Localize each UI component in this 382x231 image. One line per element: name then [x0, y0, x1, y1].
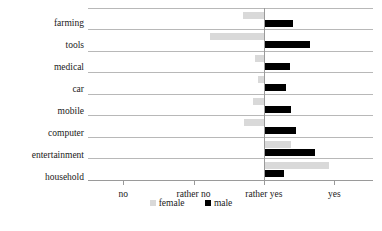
gridline — [88, 94, 373, 95]
bar-male-tools — [264, 41, 310, 48]
plot-area: no rather no rather yes yes — [88, 8, 373, 180]
legend-label-male: male — [214, 198, 232, 208]
bar-female-household — [264, 162, 329, 169]
bar-male-entertainment — [264, 149, 315, 156]
gridline — [88, 115, 373, 116]
chart-legend: female male — [0, 198, 382, 208]
gridline — [88, 137, 373, 138]
category-label-medical: medical — [0, 62, 84, 72]
baseline-reference-line — [264, 8, 265, 181]
x-axis-tick — [123, 180, 124, 185]
category-label-farming: farming — [0, 18, 84, 28]
x-axis-tick — [334, 180, 335, 185]
gridline — [88, 8, 373, 9]
category-label-mobile: mobile — [0, 106, 84, 116]
bar-male-car — [264, 84, 287, 91]
bar-female-tools — [210, 33, 264, 40]
bar-female-entertainment — [264, 141, 291, 148]
bar-female-farming — [243, 12, 264, 19]
category-label-entertainment: entertainment — [0, 150, 84, 160]
gridline — [88, 72, 373, 73]
category-label-tools: tools — [0, 40, 84, 50]
x-axis-tick — [194, 180, 195, 185]
bar-female-medical — [255, 55, 264, 62]
category-axis: farming tools medical car mobile compute… — [0, 8, 84, 180]
gridline — [88, 51, 373, 52]
bar-male-farming — [264, 20, 294, 27]
bar-male-computer — [264, 127, 296, 134]
legend-item-female: female — [150, 198, 185, 208]
gridline — [88, 158, 373, 159]
female-swatch-icon — [150, 200, 156, 206]
gridline — [88, 29, 373, 30]
bar-male-medical — [264, 63, 290, 70]
legend-item-male: male — [205, 198, 232, 208]
bar-female-computer — [244, 119, 264, 126]
category-label-computer: computer — [0, 128, 84, 138]
category-label-household: household — [0, 172, 84, 182]
category-label-car: car — [0, 84, 84, 94]
bar-male-household — [264, 170, 284, 177]
bar-female-mobile — [253, 98, 264, 105]
bar-male-mobile — [264, 106, 291, 113]
x-axis-tick — [264, 180, 265, 185]
x-axis-line — [88, 180, 373, 181]
legend-label-female: female — [159, 198, 185, 208]
male-swatch-icon — [205, 200, 211, 206]
chart-container: farming tools medical car mobile compute… — [0, 0, 382, 231]
